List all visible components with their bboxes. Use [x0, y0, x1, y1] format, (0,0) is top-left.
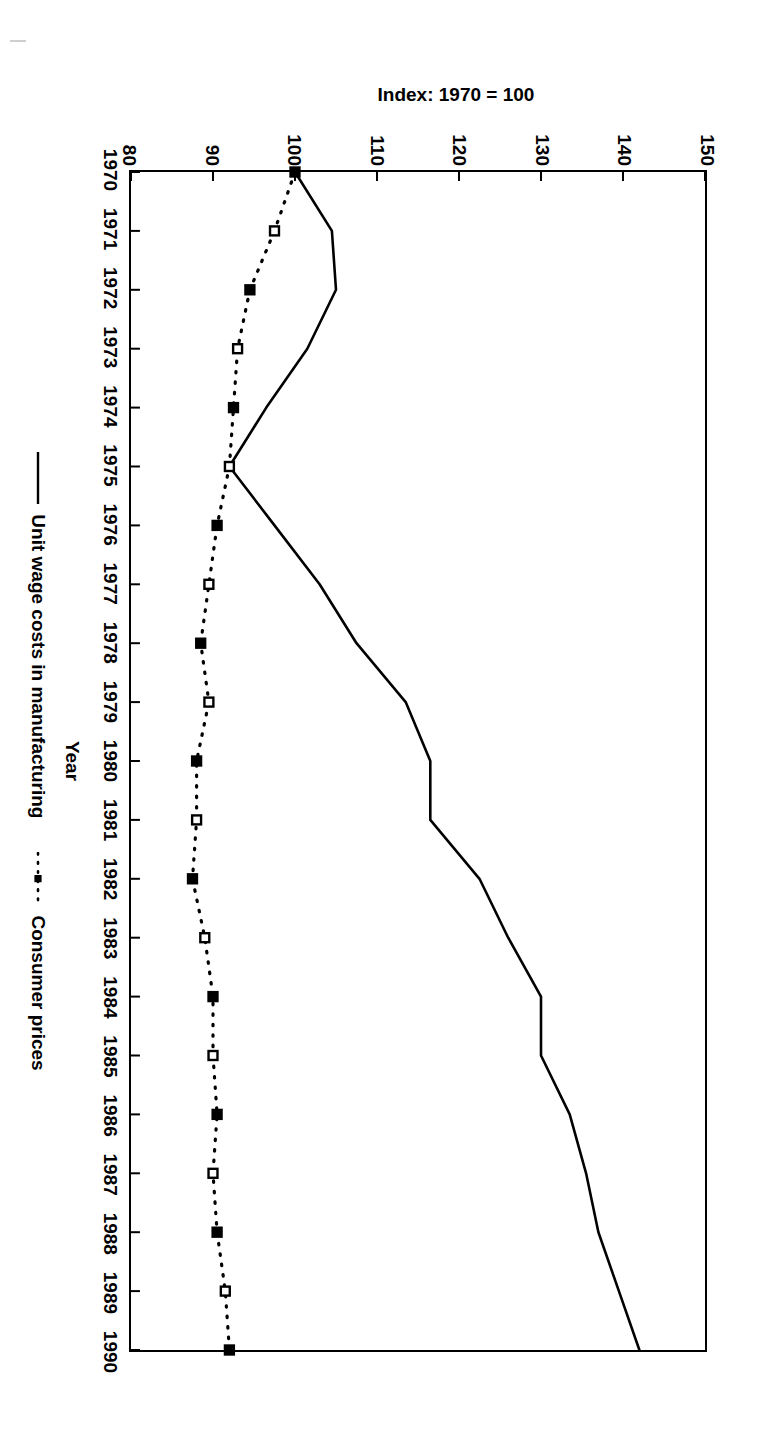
x-axis-tick-label: 1990	[99, 1330, 121, 1372]
dotted-line-square-marker-swatch-icon	[31, 852, 45, 906]
x-axis-tick-label: 1988	[99, 1212, 121, 1254]
y-axis-tick-label: 90	[201, 144, 223, 165]
x-axis-tick-label: 1979	[99, 680, 121, 722]
x-axis-tick-label: 1977	[99, 562, 121, 604]
x-axis-tick-label: 1985	[99, 1035, 121, 1077]
x-axis-tick-label: 1989	[99, 1271, 121, 1313]
data-point-marker	[209, 1051, 218, 1060]
x-axis-title: Year	[61, 170, 83, 1352]
figure-canvas: 1970197119721973197419751976197719781979…	[0, 0, 774, 1439]
x-axis-tick-label: 1976	[99, 503, 121, 545]
data-point-marker	[213, 1109, 222, 1118]
plot-area	[129, 170, 707, 1352]
data-point-marker	[200, 933, 209, 942]
data-point-marker	[245, 285, 254, 294]
x-axis-tick-label: 1986	[99, 1094, 121, 1136]
y-axis-ticks	[131, 172, 705, 181]
y-axis-tick-label: 120	[448, 134, 470, 166]
x-axis-tick-label: 1973	[99, 326, 121, 368]
data-point-marker	[233, 344, 242, 353]
x-axis-tick-label: 1975	[99, 444, 121, 486]
data-point-marker	[209, 992, 218, 1001]
data-point-marker	[291, 167, 300, 176]
data-point-marker	[204, 697, 213, 706]
data-point-marker	[209, 1168, 218, 1177]
legend-entry-consumer-prices: Consumer prices	[27, 852, 49, 1070]
x-axis-tick-label: 1971	[99, 207, 121, 249]
data-point-marker	[213, 1227, 222, 1236]
legend-entry-unit-wage-costs: Unit wage costs in manufacturing	[27, 451, 49, 818]
data-point-marker	[213, 520, 222, 529]
y-axis-tick-label: 150	[696, 134, 718, 166]
data-point-marker	[196, 638, 205, 647]
data-point-marker	[188, 874, 197, 883]
x-axis-tick-label: 1972	[99, 267, 121, 309]
y-axis-tick-label: 140	[613, 134, 635, 166]
x-axis-tick-label: 1980	[99, 739, 121, 781]
series-line-unit-wage-costs	[229, 172, 639, 1350]
series-layer	[131, 172, 705, 1350]
data-point-marker	[225, 462, 234, 471]
data-point-marker	[225, 1345, 234, 1354]
data-point-marker	[229, 403, 238, 412]
y-axis-tick-label: 100	[283, 134, 305, 166]
y-axis-tick-label: 110	[366, 135, 388, 166]
data-point-marker	[270, 226, 279, 235]
x-axis-tick-label: 1982	[99, 858, 121, 900]
x-axis-tick-label: 1981	[99, 798, 121, 840]
solid-line-swatch-icon	[31, 451, 45, 505]
legend-label-unit-wage-costs: Unit wage costs in manufacturing	[27, 514, 49, 818]
x-axis-tick-label: 1983	[99, 917, 121, 959]
x-axis-tick-label: 1974	[99, 385, 121, 427]
x-axis-tick-labels: 1970197119721973197419751976197719781979…	[91, 170, 121, 1352]
data-point-marker	[204, 579, 213, 588]
legend-label-consumer-prices: Consumer prices	[27, 915, 49, 1070]
x-axis-tick-label: 1978	[99, 621, 121, 663]
x-axis-tick-label: 1984	[99, 976, 121, 1018]
data-point-marker	[221, 1286, 230, 1295]
series-markers-consumer-prices	[188, 167, 299, 1354]
y-axis-tick-label: 130	[531, 134, 553, 166]
chart-legend: Unit wage costs in manufacturing Consume…	[27, 170, 49, 1352]
rotated-figure: 1970197119721973197419751976197719781979…	[7, 20, 767, 1420]
y-axis-tick-label: 80	[118, 144, 140, 165]
data-point-marker	[192, 815, 201, 824]
y-axis-title: Index: 1970 = 100	[326, 84, 586, 106]
x-axis-tick-label: 1987	[99, 1153, 121, 1195]
data-point-marker	[192, 756, 201, 765]
x-axis-ticks	[131, 172, 140, 1350]
